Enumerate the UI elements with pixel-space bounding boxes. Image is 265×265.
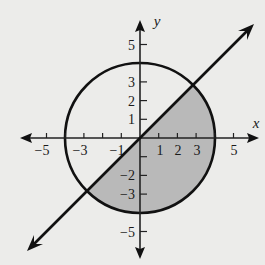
y-tick-label: 3: [128, 75, 135, 90]
x-tick-label: 5: [231, 143, 238, 158]
y-tick-label: 2: [128, 94, 135, 109]
x-tick-label: −5: [35, 143, 50, 158]
coordinate-diagram: −5 −3 −1 1 2 3 5 x 5 3 2 1 −2: [0, 0, 265, 265]
x-axis-label: x: [252, 115, 260, 131]
y-tick-label: −3: [120, 187, 135, 202]
x-tick-label: −3: [73, 143, 88, 158]
y-tick-label: −5: [120, 225, 135, 240]
y-tick-label: 1: [128, 112, 135, 127]
y-axis-label: y: [152, 13, 161, 29]
x-tick-label: 3: [194, 143, 201, 158]
x-tick-label: 1: [157, 143, 164, 158]
y-tick-label: 5: [128, 38, 135, 53]
y-tick-label: −2: [120, 168, 135, 183]
x-tick-label: 2: [175, 143, 182, 158]
